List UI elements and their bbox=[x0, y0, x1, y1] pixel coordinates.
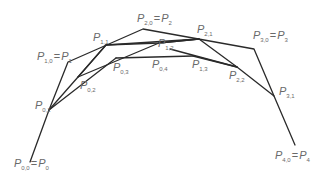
segment-p02-p11 bbox=[78, 45, 106, 77]
label-p21: P2,1 bbox=[197, 24, 213, 40]
label-p13: P1,3 bbox=[192, 59, 208, 75]
label-p10: P1,0=P1 bbox=[37, 51, 72, 67]
label-p20: P2,0=P2 bbox=[137, 13, 172, 29]
label-p12: P1,2 bbox=[158, 38, 174, 54]
label-p01: P0,1 bbox=[35, 100, 51, 116]
label-p40: P4,0=P4 bbox=[275, 150, 310, 166]
label-p11: P1,1 bbox=[93, 32, 109, 48]
label-p30: P3,0=P3 bbox=[253, 30, 288, 46]
label-p04: P0,4 bbox=[152, 59, 168, 75]
label-p02: P0,2 bbox=[80, 80, 96, 96]
label-p00: P0,0=P0 bbox=[14, 158, 49, 174]
label-p03: P0,3 bbox=[113, 62, 129, 78]
label-p22: P2,2 bbox=[229, 70, 245, 86]
label-p31: P3,1 bbox=[279, 86, 295, 102]
